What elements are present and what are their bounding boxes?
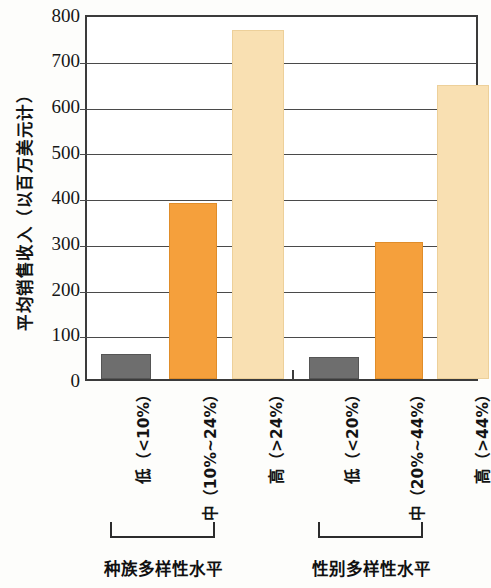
y-tick-800: 800 bbox=[24, 6, 80, 25]
bar-gender-high bbox=[437, 85, 489, 379]
axis-tick-300 bbox=[80, 246, 87, 247]
group-bracket-gender bbox=[318, 522, 423, 538]
axis-tick-400 bbox=[80, 200, 87, 201]
plot-area bbox=[85, 15, 478, 381]
group-bracket-racial bbox=[110, 522, 215, 538]
group-title-gender: 性别多样性水平 bbox=[300, 556, 442, 580]
y-tick-300: 300 bbox=[24, 234, 80, 253]
bar-racial-high bbox=[232, 30, 284, 379]
axis-tick-600 bbox=[80, 109, 87, 110]
y-tick-200: 200 bbox=[24, 280, 80, 299]
bar-racial-mid bbox=[169, 203, 217, 379]
y-tick-100: 100 bbox=[24, 325, 80, 344]
category-labels: 低（<10%） 中（10%~24%） 高（>24%） 低（<20%） 中（20%… bbox=[85, 386, 478, 518]
y-tick-700: 700 bbox=[24, 51, 80, 70]
y-tick-600: 600 bbox=[24, 97, 80, 116]
y-axis-tick-labels: 800 700 600 500 400 300 200 100 0 bbox=[22, 0, 80, 400]
category-label-gender-high: 高（>44%） bbox=[470, 386, 488, 518]
category-label-racial-low: 低（<10%） bbox=[131, 386, 149, 518]
axis-tick-500 bbox=[80, 154, 87, 155]
y-tick-400: 400 bbox=[24, 188, 80, 207]
bar-chart: 平均销售收入（以百万美元计） 800 700 600 500 400 300 2… bbox=[0, 0, 491, 588]
bar-gender-low bbox=[309, 357, 359, 379]
axis-tick-700 bbox=[80, 63, 87, 64]
category-label-racial-high: 高（>24%） bbox=[264, 386, 282, 518]
group-title-racial: 种族多样性水平 bbox=[92, 556, 234, 580]
category-label-gender-low: 低（<20%） bbox=[340, 386, 358, 518]
category-label-racial-mid: 中（10%~24%） bbox=[198, 386, 216, 534]
y-tick-500: 500 bbox=[24, 143, 80, 162]
group-separator-tick bbox=[292, 370, 294, 379]
bar-gender-mid bbox=[375, 242, 423, 379]
y-tick-0: 0 bbox=[24, 371, 80, 390]
category-label-gender-mid: 中（20%~44%） bbox=[405, 386, 423, 534]
axis-tick-200 bbox=[80, 292, 87, 293]
axis-tick-100 bbox=[80, 337, 87, 338]
bar-racial-low bbox=[101, 354, 151, 379]
